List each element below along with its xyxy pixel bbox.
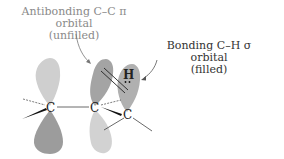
bonding-arrowhead [141,76,146,81]
c1-p-orbital-upper-lobe [36,58,61,106]
carbon-atom-3: C [123,108,132,122]
hydrogen-atom: H [123,68,134,82]
c3-bond-lower-right [133,118,152,131]
c2-p-orbital-upper-lobe [90,59,113,106]
electron-pair-dot-2 [129,81,131,83]
c2-dashed-bond [101,100,121,105]
antibonding-arrow [76,34,89,62]
electron-pair-dot-1 [125,81,127,83]
c2-p-orbital-lower-lobe [90,110,112,153]
c1-dashed-bond [23,99,45,105]
orbital-diagram: C C C H [0,0,284,159]
carbon-atom-2: C [90,101,99,115]
bonding-arrow [144,60,157,78]
c1-wedge-bond [22,108,47,119]
c2-c3-wedge-bond [101,107,122,116]
c3-bond-lower-left [104,118,124,130]
carbon-atom-1: C [46,101,55,115]
c1-p-orbital-lower-lobe [34,110,63,154]
